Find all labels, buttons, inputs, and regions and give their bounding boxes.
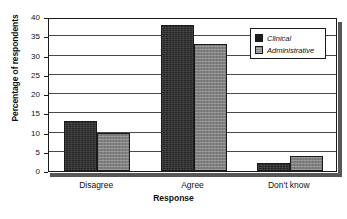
y-tick-label: 25 bbox=[0, 71, 40, 80]
bar-don-t-know-administrative bbox=[290, 156, 323, 171]
y-tick-label: 20 bbox=[0, 90, 40, 99]
y-tick-label: 40 bbox=[0, 13, 40, 22]
plot-shadow-bottom bbox=[50, 173, 342, 177]
legend-item-clinical: Clinical bbox=[255, 32, 325, 44]
y-tick-label: 0 bbox=[0, 167, 40, 176]
y-tick-label: 35 bbox=[0, 32, 40, 41]
bar-disagree-administrative bbox=[97, 133, 130, 172]
bar-don-t-know-clinical bbox=[257, 163, 290, 171]
legend-item-administrative: Administrative bbox=[255, 44, 325, 56]
x-tick-label: Don't know bbox=[239, 180, 339, 190]
chart-legend: Clinical Administrative bbox=[250, 28, 326, 59]
bar-agree-clinical bbox=[161, 25, 194, 171]
x-tick-label: Agree bbox=[143, 180, 243, 190]
plot-shadow-right bbox=[338, 22, 342, 176]
legend-label-clinical: Clinical bbox=[267, 34, 291, 43]
y-tick-label: 5 bbox=[0, 148, 40, 157]
x-tick-label: Disagree bbox=[46, 180, 146, 190]
y-tick-mark bbox=[44, 172, 48, 173]
bar-chart: Percentage of respondents 05101520253035… bbox=[0, 0, 347, 219]
bar-disagree-clinical bbox=[64, 121, 97, 171]
legend-label-administrative: Administrative bbox=[267, 46, 314, 55]
legend-swatch-clinical bbox=[255, 34, 263, 42]
bar-agree-administrative bbox=[194, 44, 227, 171]
y-tick-label: 30 bbox=[0, 52, 40, 61]
x-axis-title: Response bbox=[0, 193, 347, 203]
y-tick-label: 15 bbox=[0, 109, 40, 118]
y-tick-label: 10 bbox=[0, 129, 40, 138]
legend-swatch-administrative bbox=[255, 46, 263, 54]
